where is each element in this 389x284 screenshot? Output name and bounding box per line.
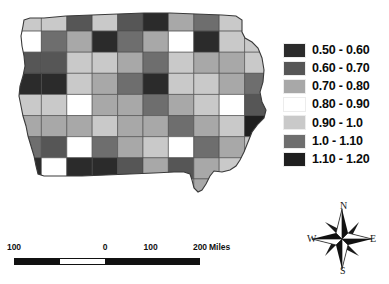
county-polygon bbox=[118, 137, 143, 158]
legend-label: 0.70 - 0.80 bbox=[312, 80, 370, 93]
county-polygon bbox=[143, 116, 168, 137]
legend-label: 0.60 - 0.70 bbox=[312, 62, 370, 75]
county-polygon bbox=[194, 94, 219, 115]
county-polygon bbox=[92, 94, 117, 115]
county-polygon bbox=[67, 116, 92, 137]
legend-swatch bbox=[283, 43, 306, 58]
scale-bar-segment bbox=[15, 259, 60, 264]
county-polygon bbox=[118, 116, 143, 137]
county-polygon bbox=[118, 158, 143, 179]
county-polygon bbox=[219, 31, 244, 52]
county-polygon bbox=[245, 52, 270, 73]
scale-bar-tick-label: 0 bbox=[103, 243, 108, 252]
county-polygon bbox=[92, 137, 117, 158]
choropleth-map bbox=[14, 6, 272, 206]
scale-bar-tick-label: 200 bbox=[193, 243, 207, 252]
county-polygon bbox=[67, 52, 92, 73]
scale-bar-segment bbox=[150, 259, 199, 264]
county-polygon bbox=[67, 179, 92, 200]
legend-item: 0.50 - 0.60 bbox=[283, 41, 387, 59]
scale-bar: 1000100200Miles bbox=[14, 243, 254, 265]
county-polygon bbox=[168, 73, 193, 94]
county-polygon bbox=[67, 10, 92, 31]
county-polygon bbox=[118, 31, 143, 52]
legend-item: 0.80 - 0.90 bbox=[283, 96, 387, 114]
county-polygon bbox=[245, 116, 270, 137]
county-polygon bbox=[92, 179, 117, 200]
county-polygon bbox=[194, 158, 219, 179]
county-polygon bbox=[219, 116, 244, 137]
scale-bar-tick-label: 100 bbox=[7, 243, 21, 252]
county-polygon bbox=[143, 94, 168, 115]
county-polygon bbox=[194, 52, 219, 73]
legend-item: 1.0 - 1.10 bbox=[283, 132, 387, 150]
iowa-county-map bbox=[14, 6, 272, 206]
legend-item: 1.10 - 1.20 bbox=[283, 150, 387, 168]
legend-item: 0.70 - 0.80 bbox=[283, 77, 387, 95]
county-polygon bbox=[118, 179, 143, 200]
county-polygon bbox=[245, 94, 270, 115]
county-polygon bbox=[67, 137, 92, 158]
county-polygon bbox=[143, 73, 168, 94]
county-polygon bbox=[168, 94, 193, 115]
county-polygon bbox=[92, 73, 117, 94]
county-polygon bbox=[194, 31, 219, 52]
county-polygon bbox=[41, 137, 66, 158]
county-polygon bbox=[245, 179, 270, 200]
county-polygon bbox=[168, 137, 193, 158]
county-polygon bbox=[194, 10, 219, 31]
county-polygon bbox=[16, 116, 41, 137]
legend-label: 1.10 - 1.20 bbox=[312, 153, 370, 166]
county-polygon bbox=[67, 31, 92, 52]
county-polygon bbox=[143, 179, 168, 200]
county-polygon bbox=[41, 10, 66, 31]
county-polygon bbox=[118, 94, 143, 115]
legend-swatch bbox=[283, 134, 306, 149]
county-polygon bbox=[168, 158, 193, 179]
county-polygon bbox=[194, 116, 219, 137]
county-polygon bbox=[67, 73, 92, 94]
county-polygon bbox=[92, 116, 117, 137]
county-polygon bbox=[41, 94, 66, 115]
legend-swatch bbox=[283, 115, 306, 130]
compass-east-label: E bbox=[370, 234, 376, 244]
legend-label: 0.90 - 1.0 bbox=[312, 117, 363, 130]
county-polygon bbox=[92, 31, 117, 52]
county-polygon bbox=[168, 31, 193, 52]
county-polygon bbox=[143, 52, 168, 73]
county-polygon bbox=[143, 31, 168, 52]
legend-swatch bbox=[283, 79, 306, 94]
map-legend: 0.50 - 0.600.60 - 0.700.70 - 0.800.80 - … bbox=[283, 41, 387, 168]
compass-rose: N E S W bbox=[305, 200, 379, 278]
scale-bar-segment bbox=[105, 259, 150, 264]
county-polygon bbox=[41, 73, 66, 94]
county-polygon bbox=[16, 10, 41, 31]
county-polygon bbox=[41, 116, 66, 137]
county-polygon bbox=[92, 10, 117, 31]
county-polygon bbox=[118, 52, 143, 73]
compass-north-label: N bbox=[340, 201, 347, 211]
legend-swatch bbox=[283, 61, 306, 76]
scale-bar-labels: 1000100200Miles bbox=[14, 243, 254, 255]
county-polygon bbox=[41, 31, 66, 52]
legend-swatch bbox=[283, 152, 306, 167]
county-polygon bbox=[245, 73, 270, 94]
legend-label: 0.80 - 0.90 bbox=[312, 98, 370, 111]
compass-south-label: S bbox=[340, 266, 346, 276]
county-polygon bbox=[168, 116, 193, 137]
county-polygon bbox=[194, 137, 219, 158]
compass-west-label: W bbox=[307, 234, 316, 244]
county-polygon bbox=[16, 158, 41, 179]
county-polygon bbox=[143, 158, 168, 179]
county-polygon bbox=[118, 73, 143, 94]
legend-swatch bbox=[283, 97, 306, 112]
legend-label: 1.0 - 1.10 bbox=[312, 135, 363, 148]
county-polygon bbox=[194, 73, 219, 94]
county-polygon bbox=[168, 179, 193, 200]
county-polygon bbox=[245, 158, 270, 179]
county-polygon bbox=[219, 52, 244, 73]
legend-item: 0.90 - 1.0 bbox=[283, 114, 387, 132]
county-polygon bbox=[219, 10, 244, 31]
county-grid bbox=[16, 10, 270, 200]
county-polygon bbox=[16, 31, 41, 52]
